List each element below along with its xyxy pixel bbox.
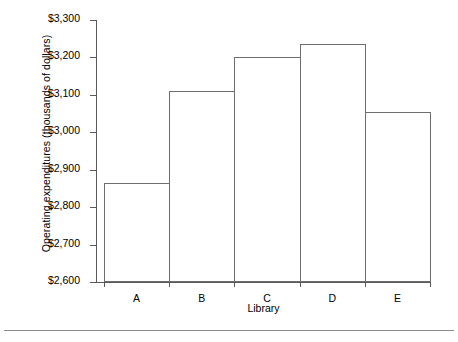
x-axis-tick xyxy=(365,282,366,287)
y-axis-tick: $3,000 xyxy=(90,132,96,133)
bar-e xyxy=(365,112,431,282)
x-axis-title: Library xyxy=(96,302,431,314)
footer-divider xyxy=(4,330,454,331)
y-axis-tick-label: $2,700 xyxy=(48,237,80,249)
y-axis-tick: $3,200 xyxy=(90,57,96,58)
y-axis-tick-label: $2,900 xyxy=(48,162,80,174)
y-axis-tick-label: $3,300 xyxy=(48,12,80,24)
bar-chart-figure: Operating expenditures (thousands of dol… xyxy=(0,0,458,342)
x-axis-tick xyxy=(300,282,301,287)
y-axis-line xyxy=(96,20,97,283)
x-axis-tick xyxy=(169,282,170,287)
y-axis-tick: $2,900 xyxy=(90,170,96,171)
y-axis-tick-label: $2,600 xyxy=(48,274,80,286)
y-axis-tick-label: $3,100 xyxy=(48,87,80,99)
x-axis-tick xyxy=(104,282,105,287)
bar-a xyxy=(104,183,170,282)
bar-b xyxy=(169,91,235,282)
plot-area: $2,600$2,700$2,800$2,900$3,000$3,100$3,2… xyxy=(96,20,431,283)
y-axis-tick-label: $2,800 xyxy=(48,199,80,211)
bar-d xyxy=(300,44,366,282)
x-axis-line xyxy=(96,282,431,283)
y-axis-tick: $3,100 xyxy=(90,95,96,96)
x-axis-tick xyxy=(234,282,235,287)
y-axis-tick: $3,300 xyxy=(90,20,96,21)
bar-c xyxy=(234,57,300,282)
y-axis-tick: $2,600 xyxy=(90,282,96,283)
x-axis-tick xyxy=(430,282,431,287)
y-axis-tick-label: $3,200 xyxy=(48,49,80,61)
y-axis-tick: $2,700 xyxy=(90,245,96,246)
y-axis-tick-label: $3,000 xyxy=(48,124,80,136)
y-axis-tick: $2,800 xyxy=(90,207,96,208)
